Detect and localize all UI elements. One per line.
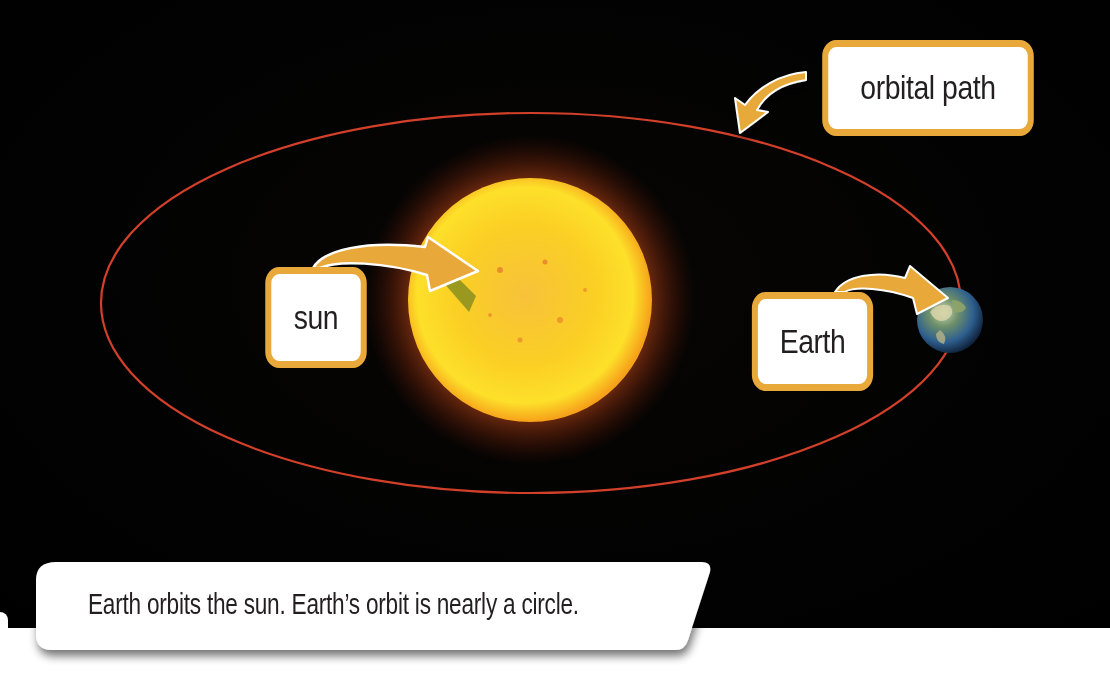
label-orbital-path: orbital path bbox=[822, 40, 1034, 136]
label-sun: sun bbox=[265, 267, 366, 368]
sun-icon bbox=[365, 135, 695, 465]
arrow-orbital-path-icon bbox=[735, 72, 806, 133]
label-earth: Earth bbox=[752, 292, 873, 391]
label-orbital-path-text: orbital path bbox=[860, 69, 995, 107]
label-earth-text: Earth bbox=[780, 323, 846, 361]
caption-text: Earth orbits the sun. Earth’s orbit is n… bbox=[88, 588, 579, 621]
label-sun-text: sun bbox=[294, 299, 338, 337]
caption: Earth orbits the sun. Earth’s orbit is n… bbox=[0, 540, 760, 692]
